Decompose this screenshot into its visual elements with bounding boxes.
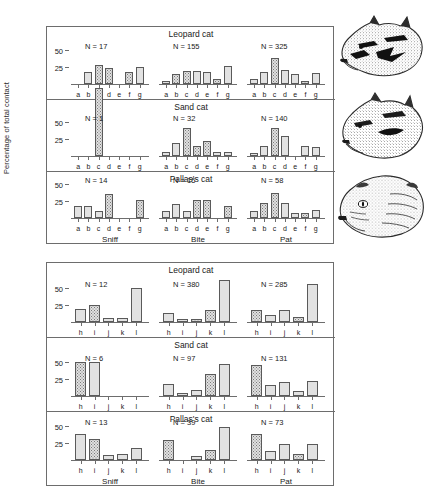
x-tick-mark bbox=[140, 157, 141, 160]
panel-pat-leopard-cat: abcdefgN = 325 bbox=[247, 29, 325, 85]
x-tick-label: j bbox=[279, 403, 289, 410]
panel-bite-pallas-s-cat: abcdefgN = 15Bite bbox=[159, 173, 237, 219]
x-tick-mark bbox=[88, 219, 89, 222]
x-tick-label: j bbox=[191, 467, 201, 474]
x-tick-label: e bbox=[202, 163, 212, 170]
x-tick-mark bbox=[109, 157, 110, 160]
species-row-leopard-cat: Leopard cat2550hijklN = 12hijklN = 380hi… bbox=[47, 263, 335, 337]
x-tick-mark bbox=[187, 219, 188, 222]
x-tick-label: e bbox=[114, 225, 124, 232]
bar bbox=[260, 72, 268, 84]
x-tick-label: l bbox=[131, 467, 141, 474]
x-tick-mark bbox=[312, 323, 313, 326]
panel-baseline bbox=[247, 156, 325, 157]
x-tick-mark bbox=[295, 157, 296, 160]
x-tick-label: j bbox=[279, 329, 289, 336]
x-tick-mark bbox=[119, 219, 120, 222]
bar bbox=[75, 309, 86, 322]
x-tick-mark bbox=[284, 397, 285, 400]
panel-baseline bbox=[247, 218, 325, 219]
x-tick-mark bbox=[271, 397, 272, 400]
x-tick-mark bbox=[316, 157, 317, 160]
x-tick-label: c bbox=[94, 225, 104, 232]
bar bbox=[293, 317, 304, 322]
bar bbox=[177, 393, 188, 396]
species-row-sand-cat: Sand cat2550hijklN = 6hijklN = 97hijklN … bbox=[47, 337, 335, 411]
sand-cat-head-illustration bbox=[330, 92, 438, 166]
x-tick-label: c bbox=[270, 163, 280, 170]
panel-pat-sand-cat: abcdefgN = 140 bbox=[247, 101, 325, 157]
bar bbox=[281, 70, 289, 84]
x-tick-label: a bbox=[249, 91, 259, 98]
x-tick-mark bbox=[312, 397, 313, 400]
x-tick-label: c bbox=[94, 163, 104, 170]
behaviour-label-sniff: Sniff bbox=[71, 235, 149, 244]
x-tick-mark bbox=[228, 157, 229, 160]
x-tick-mark bbox=[88, 157, 89, 160]
x-tick-label: i bbox=[90, 329, 100, 336]
x-tick-label: e bbox=[202, 225, 212, 232]
behaviour-label-sniff: Sniff bbox=[71, 477, 149, 486]
bar bbox=[281, 136, 289, 156]
x-tick-mark bbox=[197, 85, 198, 88]
x-tick-mark bbox=[275, 157, 276, 160]
x-tick-mark bbox=[275, 85, 276, 88]
x-tick-label: l bbox=[219, 329, 229, 336]
x-tick-mark bbox=[109, 219, 110, 222]
x-tick-label: a bbox=[249, 225, 259, 232]
x-tick-mark bbox=[136, 323, 137, 326]
x-tick-mark bbox=[169, 323, 170, 326]
x-tick-mark bbox=[99, 157, 100, 160]
bar bbox=[265, 451, 276, 460]
bar bbox=[203, 72, 211, 84]
x-tick-mark bbox=[284, 461, 285, 464]
bar bbox=[191, 456, 202, 460]
x-tick-label: e bbox=[114, 91, 124, 98]
x-tick-mark bbox=[176, 157, 177, 160]
x-tick-label: g bbox=[311, 91, 321, 98]
bar bbox=[251, 434, 262, 460]
y-tick-mark bbox=[65, 379, 69, 380]
x-tick-mark bbox=[285, 85, 286, 88]
bar bbox=[250, 153, 258, 156]
species-row-pallas-s-cat: Pallas's cat2550hijklN = 13SniffhijklN =… bbox=[47, 411, 335, 487]
x-tick-mark bbox=[197, 157, 198, 160]
x-tick-label: f bbox=[124, 163, 134, 170]
x-tick-mark bbox=[166, 85, 167, 88]
panel-sniff-leopard-cat: hijklN = 12 bbox=[71, 265, 149, 323]
sample-size-label: N = 15 bbox=[173, 176, 195, 185]
y-tick-mark bbox=[65, 443, 69, 444]
y-tick-mark bbox=[65, 288, 69, 289]
bar bbox=[191, 319, 202, 322]
x-tick-label: g bbox=[311, 163, 321, 170]
x-tick-mark bbox=[196, 323, 197, 326]
x-tick-label: j bbox=[103, 329, 113, 336]
behaviour-label-bite: Bite bbox=[159, 477, 237, 486]
x-tick-label: k bbox=[293, 467, 303, 474]
x-tick-label: g bbox=[135, 225, 145, 232]
x-tick-label: a bbox=[249, 163, 259, 170]
chart-block-top: Leopard cat2550abcdefgN = 17abcdefgN = 1… bbox=[46, 26, 334, 244]
panel-bite-leopard-cat: abcdefgN = 155 bbox=[159, 29, 237, 85]
bar bbox=[95, 65, 103, 84]
bar bbox=[172, 143, 180, 156]
sample-size-label: N = 14 bbox=[85, 176, 107, 185]
y-tick-label: 25 bbox=[47, 64, 63, 73]
panel-sniff-leopard-cat: abcdefgN = 17 bbox=[71, 29, 149, 85]
bar bbox=[205, 450, 216, 460]
behaviour-label-pat: Pat bbox=[247, 477, 325, 486]
bar bbox=[281, 203, 289, 218]
bar bbox=[163, 313, 174, 322]
x-tick-label: b bbox=[83, 163, 93, 170]
x-tick-label: a bbox=[161, 225, 171, 232]
x-tick-label: c bbox=[270, 91, 280, 98]
x-tick-label: a bbox=[161, 91, 171, 98]
x-tick-label: c bbox=[182, 225, 192, 232]
x-tick-mark bbox=[95, 323, 96, 326]
bar bbox=[162, 81, 170, 84]
bar bbox=[131, 288, 142, 322]
x-tick-mark bbox=[257, 323, 258, 326]
x-tick-mark bbox=[95, 397, 96, 400]
x-tick-mark bbox=[129, 219, 130, 222]
y-tick-mark bbox=[65, 122, 69, 123]
